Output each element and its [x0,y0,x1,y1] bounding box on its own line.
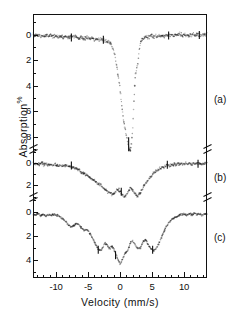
y-tick-minor-c-1 [33,248,36,249]
y-tick-minor-a-1 [33,73,36,74]
y-tick-label-b-2: 2 [17,180,31,189]
x-tick-label-5: 5 [141,281,163,292]
y-tick-label-c-4: 4 [17,255,31,264]
y-tick-label-b-0: 0 [17,158,31,167]
x-tick-label-10: 10 [173,281,195,292]
y-tick-c-4 [33,260,38,261]
axis-break-mark-left-1 [29,144,38,155]
x-tick-1 [126,275,127,279]
x-tick-label--10: -10 [45,281,67,292]
x-tick-10 [184,272,185,278]
y-tick-label-c-0: 0 [17,207,31,216]
y-tick-b-2 [33,185,38,186]
x-tick-label--5: -5 [77,281,99,292]
x-tick-3 [139,275,140,279]
axis-break-mark-2 [203,192,212,203]
y-tick-label-c-2: 2 [17,231,31,240]
y-tick-minor-a-2 [33,98,36,99]
x-tick--2 [107,275,108,279]
x-tick--3 [101,275,102,279]
y-tick-b-0 [33,163,38,164]
y-tick-minor-a-3 [33,124,36,125]
x-tick--10 [56,272,57,278]
x-tick-4 [146,275,147,279]
x-tick-label-0: 0 [109,281,131,292]
y-tick-minor-a-0 [33,47,36,48]
x-tick--9 [62,275,63,279]
y-tick-minor-c-0 [33,224,36,225]
x-tick-0 [120,272,121,278]
x-tick--13 [37,275,38,279]
y-tick-a-0 [33,35,38,36]
y-tick-minor-b-0 [33,174,36,175]
x-tick--8 [69,275,70,279]
x-tick-9 [178,275,179,279]
x-tick-12 [197,275,198,279]
x-tick-8 [171,275,172,279]
x-tick-11 [190,275,191,279]
x-tick--4 [94,275,95,279]
panel-tag-c: (c) [214,232,226,243]
y-tick-label-a-0: 0 [17,30,31,39]
axis-break-mark-1 [203,144,212,155]
y-tick-label-a-6: 6 [17,106,31,115]
y-tick-a-2 [33,60,38,61]
x-tick-7 [165,275,166,279]
axis-break-mark-left-2 [29,192,38,203]
y-tick-minor-c-bot [33,272,36,273]
y-tick-a-6 [33,111,38,112]
y-tick-c-2 [33,236,38,237]
plot-frame [33,14,207,278]
y-tick-minor-a-top [33,22,36,23]
panel-tag-a: (a) [214,94,226,105]
x-tick--1 [114,275,115,279]
x-tick-6 [158,275,159,279]
x-tick--12 [43,275,44,279]
mossbauer-spectra-figure: Absorption% Velocity (mm/s) 0246802024 -… [0,0,249,318]
y-tick-c-0 [33,212,38,213]
x-tick-5 [152,272,153,278]
x-tick--5 [88,272,89,278]
y-axis-title-unit: % [15,96,24,104]
x-tick--11 [50,275,51,279]
y-tick-a-8 [33,137,38,138]
x-axis-title: Velocity (mm/s) [33,296,207,308]
x-tick--6 [82,275,83,279]
panel-tag-b: (b) [214,172,226,183]
x-tick-13 [203,275,204,279]
y-tick-label-a-8: 8 [17,132,31,141]
y-tick-label-a-4: 4 [17,81,31,90]
x-tick--7 [75,275,76,279]
y-tick-label-a-2: 2 [17,55,31,64]
x-tick-2 [133,275,134,279]
y-tick-a-4 [33,86,38,87]
